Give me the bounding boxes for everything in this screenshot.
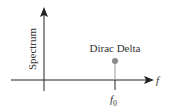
y-axis-label: Spectrum [26, 27, 38, 70]
x-axis-label: f [156, 74, 161, 86]
f0-tick-label: f0 [110, 93, 117, 108]
f0-subscript: 0 [113, 99, 117, 108]
dirac-delta-diagram: Spectrum f Dirac Delta f0 [0, 0, 171, 112]
delta-dot [112, 58, 118, 64]
delta-label: Dirac Delta [90, 42, 141, 54]
